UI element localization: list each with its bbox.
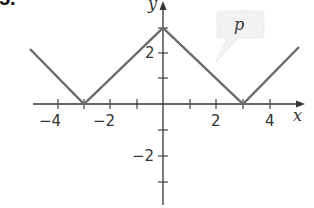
y-axis-label: y bbox=[147, 0, 158, 13]
x-tick-label-4: 4 bbox=[265, 112, 275, 130]
x-tick-label-neg4: −4 bbox=[39, 112, 61, 130]
y-tick-label-neg2: −2 bbox=[132, 147, 154, 165]
x-axis bbox=[33, 101, 305, 108]
y-tick-label-2: 2 bbox=[145, 44, 155, 62]
function-curve bbox=[30, 28, 299, 104]
x-tick-label-2: 2 bbox=[211, 112, 221, 130]
callout-label: p bbox=[234, 15, 244, 34]
x-axis-label: x bbox=[293, 106, 302, 125]
x-tick-label-neg2: −2 bbox=[93, 112, 115, 130]
callout-bubble: p bbox=[216, 11, 264, 62]
graph-figure: 5. p −4 −2 2 4 2 −2 x y bbox=[0, 0, 314, 208]
y-axis-arrow-icon bbox=[160, 1, 167, 10]
problem-number: 5. bbox=[0, 0, 16, 9]
